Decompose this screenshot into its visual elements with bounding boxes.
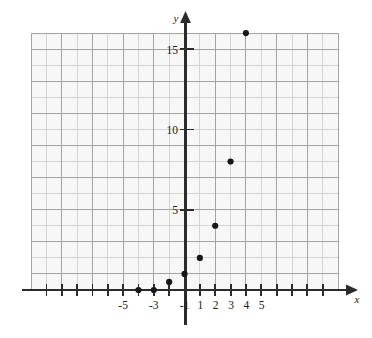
- x-tick-label: -5: [118, 299, 128, 311]
- y-tick-label: 15: [167, 44, 179, 56]
- y-axis-arrowhead: [180, 11, 191, 23]
- x-tick-label: -3: [149, 299, 159, 311]
- x-axis-label: x: [354, 293, 360, 305]
- y-tick-label: 5: [172, 204, 178, 216]
- data-point: [212, 223, 218, 229]
- y-tick-label: 10: [167, 124, 179, 136]
- data-point: [151, 287, 157, 293]
- scatter-plot-figure: -5 -3 -1 1 2 3 4 5 5 10 15 y x: [0, 0, 372, 338]
- data-point: [197, 255, 203, 261]
- x-tick-label: 4: [243, 299, 249, 311]
- coordinate-plane-svg: -5 -3 -1 1 2 3 4 5 5 10 15 y x: [0, 0, 372, 338]
- data-point: [243, 30, 249, 36]
- x-tick-label: 1: [198, 299, 204, 311]
- data-point: [166, 279, 172, 285]
- data-point: [227, 158, 233, 164]
- data-point: [135, 287, 141, 293]
- x-axis-tick-labels: -5 -3 -1 1 2 3 4 5: [118, 299, 265, 311]
- data-point: [181, 271, 187, 277]
- y-axis-label: y: [173, 12, 179, 24]
- x-tick-label: 3: [228, 299, 234, 311]
- x-tick-label: 2: [213, 299, 219, 311]
- x-tick-label: 5: [259, 299, 265, 311]
- x-tick-label: -1: [180, 299, 190, 311]
